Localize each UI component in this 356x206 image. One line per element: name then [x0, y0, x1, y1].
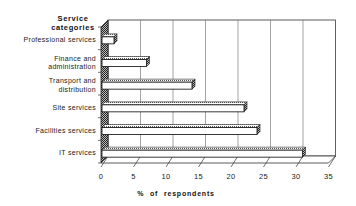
x-tick-label: 0: [99, 172, 103, 181]
x-tick-label: 5: [131, 172, 135, 181]
bar: [102, 147, 306, 157]
bar-chart: Servicecategories Professional servicesF…: [0, 0, 356, 206]
category-label: Site services: [52, 104, 96, 113]
category-label-line: Transport and: [49, 77, 96, 86]
category-label: Facilities services: [35, 127, 96, 136]
category-label: IT services: [59, 149, 96, 158]
category-label-line: Facilities services: [35, 127, 96, 136]
x-tick-label: 10: [162, 172, 171, 181]
bar: [102, 57, 150, 67]
x-tick-label: 35: [324, 172, 333, 181]
category-label-line: Finance and: [48, 55, 96, 64]
y-axis-title-line: Servicecategories: [40, 14, 106, 32]
x-tick-label: 20: [227, 172, 236, 181]
x-tick-label: 15: [194, 172, 203, 181]
bar: [102, 79, 195, 89]
x-axis-title: % of respondents: [137, 190, 215, 197]
category-label-line: administration: [48, 63, 96, 72]
category-label: Finance andadministration: [48, 55, 96, 72]
category-label: Professional services: [24, 36, 96, 45]
category-label: Transport anddistribution: [49, 77, 96, 94]
category-label-line: Professional services: [24, 36, 96, 45]
category-label-line: IT services: [59, 149, 96, 158]
bar: [102, 125, 260, 135]
x-tick-label: 25: [259, 172, 268, 181]
x-tick-label: 30: [292, 172, 301, 181]
category-label-line: Site services: [52, 104, 96, 113]
bar: [102, 34, 117, 44]
category-label-line: distribution: [49, 86, 96, 95]
y-axis-title: Servicecategories: [40, 14, 106, 32]
bar: [102, 102, 247, 112]
